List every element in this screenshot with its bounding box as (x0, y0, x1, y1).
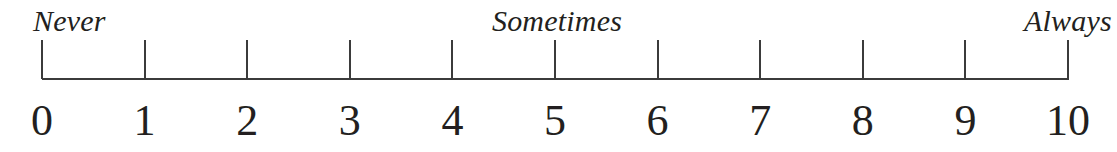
tick-mark-4 (451, 40, 453, 79)
tick-mark-0 (41, 40, 43, 79)
scale-axis: 012345678910 (0, 0, 1117, 152)
tick-label-5: 5 (544, 99, 566, 143)
tick-label-6: 6 (647, 99, 669, 143)
tick-mark-9 (964, 40, 966, 79)
rating-scale-figure: Never Sometimes Always 012345678910 (0, 0, 1117, 152)
tick-label-0: 0 (31, 99, 53, 143)
tick-mark-5 (554, 40, 556, 79)
tick-mark-2 (246, 40, 248, 79)
tick-label-3: 3 (339, 99, 361, 143)
tick-mark-1 (144, 40, 146, 79)
tick-label-4: 4 (441, 99, 463, 143)
tick-label-7: 7 (749, 99, 771, 143)
tick-label-2: 2 (236, 99, 258, 143)
tick-label-1: 1 (134, 99, 156, 143)
tick-mark-3 (349, 40, 351, 79)
tick-mark-6 (657, 40, 659, 79)
tick-label-8: 8 (852, 99, 874, 143)
tick-label-10: 10 (1046, 99, 1090, 143)
tick-mark-10 (1067, 40, 1069, 79)
tick-mark-7 (759, 40, 761, 79)
tick-mark-8 (862, 40, 864, 79)
tick-label-9: 9 (954, 99, 976, 143)
